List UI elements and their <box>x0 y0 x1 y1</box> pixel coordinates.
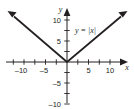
x-tick-label-neg-5: –5 <box>40 66 48 75</box>
y-tick-label-neg-5: –5 <box>53 79 61 88</box>
curve-right-arm <box>67 17 121 63</box>
x-tick-label-5: 5 <box>86 66 90 75</box>
coordinate-plane-svg: x y –10 –5 5 10 10 5 –5 –10 y = |x| <box>0 0 134 109</box>
curve-equation-label: y = |x| <box>74 26 96 35</box>
y-tick-label-neg-10: –10 <box>48 100 61 109</box>
x-tick-label-neg-10: –10 <box>15 66 28 75</box>
y-axis-arrowhead <box>64 8 71 16</box>
y-tick-label-5: 5 <box>57 37 61 46</box>
y-tick-label-10: 10 <box>53 16 61 25</box>
x-tick-label-10: 10 <box>106 66 114 75</box>
y-axis <box>64 8 71 103</box>
x-axis-label: x <box>124 63 129 72</box>
absolute-value-graph-figure: x y –10 –5 5 10 10 5 –5 –10 y = |x| <box>0 0 134 109</box>
y-axis-label: y <box>58 5 63 14</box>
